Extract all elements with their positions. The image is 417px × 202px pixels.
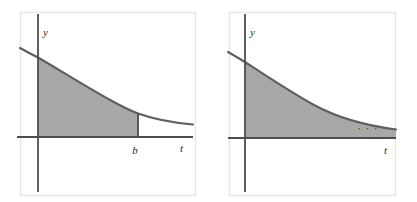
- infinite-interval-panel: · · · y t: [208, 0, 417, 202]
- ellipsis-label: · · ·: [358, 123, 379, 134]
- y-axis-label: y: [42, 26, 48, 38]
- t-axis-label: t: [384, 144, 388, 156]
- bound-label-b: b: [132, 144, 138, 156]
- t-axis-label: t: [180, 142, 184, 154]
- y-axis-label: y: [249, 26, 255, 38]
- figure-root: y t b · · · y t: [0, 0, 417, 202]
- shaded-area: [38, 58, 138, 138]
- finite-interval-panel: y t b: [0, 0, 209, 202]
